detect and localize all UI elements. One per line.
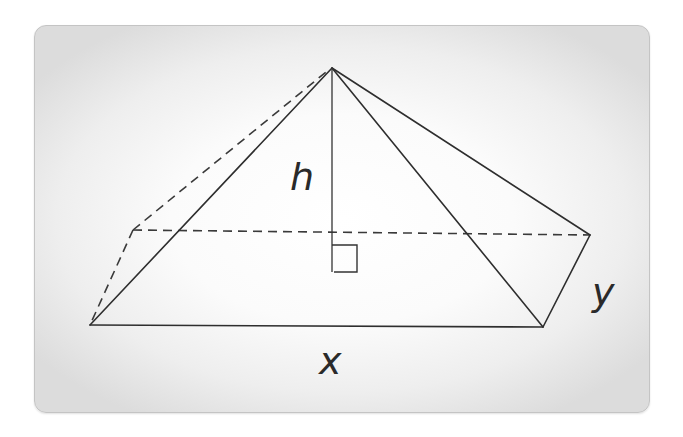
- hidden-edge-left-base: [90, 230, 133, 325]
- width-label: y: [591, 270, 615, 314]
- hidden-edge-back-left-to-apex: [133, 72, 326, 230]
- edge-front-right-to-apex: [332, 68, 543, 327]
- right-angle-marker: [332, 245, 357, 272]
- edge-back-right-to-apex: [332, 68, 590, 235]
- height-label: h: [290, 155, 314, 199]
- edge-right-base-y: [543, 235, 590, 327]
- edge-front-base-x: [90, 325, 543, 327]
- hidden-edge-back-base: [133, 230, 590, 235]
- pyramid-diagram: h x y: [0, 0, 683, 437]
- length-label: x: [318, 339, 342, 383]
